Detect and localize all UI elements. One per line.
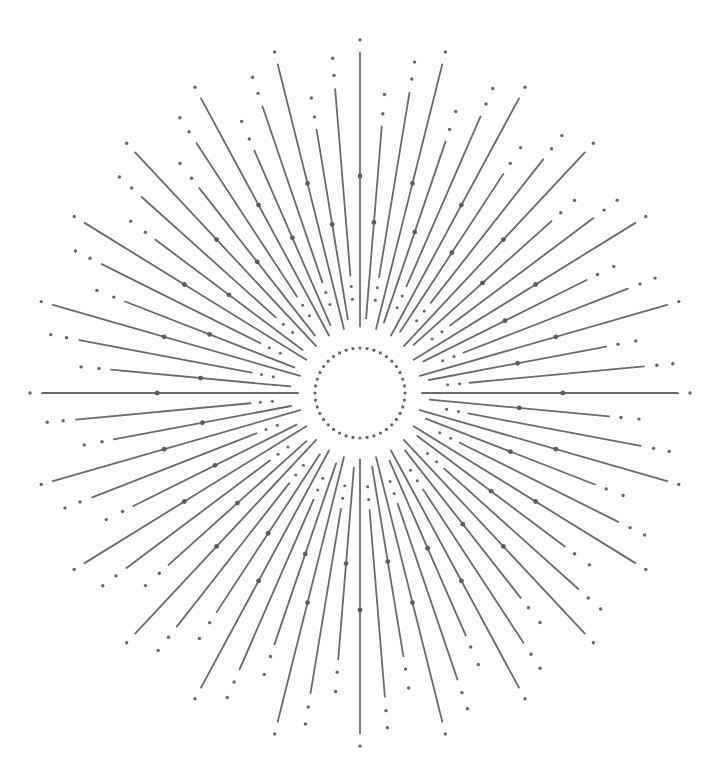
ring-dot — [318, 412, 321, 415]
ray-long — [73, 215, 307, 360]
ray-medium — [384, 110, 458, 323]
ray-long — [414, 426, 648, 571]
ray-short — [415, 134, 563, 322]
ray-short — [101, 446, 289, 588]
ring-dot — [344, 434, 347, 437]
ring-dot — [338, 431, 341, 434]
ring-dot — [322, 365, 325, 368]
ray-short — [409, 469, 542, 670]
ray-short — [118, 175, 294, 334]
ring-dot — [327, 423, 330, 426]
ray-long — [358, 459, 363, 747]
ray-medium — [429, 339, 638, 380]
ray-long — [414, 215, 648, 360]
ray-short — [426, 452, 602, 611]
ring-dot — [314, 398, 317, 401]
ray-long — [28, 391, 298, 396]
ray-short — [226, 477, 325, 699]
ring-dot — [403, 398, 406, 401]
ring-dot — [390, 360, 393, 363]
ray-medium — [430, 400, 641, 421]
ray-long — [376, 50, 447, 329]
ray-short — [49, 333, 275, 378]
ring-dot — [332, 355, 335, 358]
ray-short — [178, 116, 311, 317]
ray-long — [125, 440, 316, 644]
ray-long — [391, 86, 527, 336]
ray-short — [251, 76, 331, 306]
ray-medium — [334, 468, 354, 694]
ring-dot — [344, 349, 347, 352]
ray-long — [73, 426, 307, 571]
ray-medium — [310, 96, 348, 319]
ring-dot — [358, 436, 361, 439]
ring-dot — [365, 436, 368, 439]
ray-short — [45, 400, 273, 424]
ray-medium — [372, 467, 410, 690]
ring-dot — [327, 360, 330, 363]
ray-long — [273, 50, 344, 329]
ray-short — [438, 431, 646, 536]
sunburst-canvas — [0, 0, 718, 780]
ring-dot — [372, 434, 375, 437]
ray-long — [193, 450, 329, 700]
ring-dot — [318, 371, 321, 374]
ring-dot — [379, 351, 382, 354]
ray-short — [431, 199, 619, 341]
ray-short — [331, 57, 354, 301]
dotted-center-ring — [313, 346, 406, 439]
ray-medium — [263, 463, 337, 676]
ring-dot — [372, 349, 375, 352]
ring-dot — [322, 418, 325, 421]
ray-short — [63, 424, 279, 510]
ray-medium — [95, 289, 294, 368]
ring-dot — [385, 355, 388, 358]
ring-dot — [398, 412, 401, 415]
ring-dot — [338, 351, 341, 354]
ring-dot — [403, 391, 406, 394]
ray-short — [366, 485, 389, 729]
ring-dot — [395, 418, 398, 421]
ring-dot — [379, 431, 382, 434]
ray-short — [446, 362, 674, 386]
ring-dot — [316, 377, 319, 380]
ray-long — [391, 450, 527, 700]
ring-dot — [351, 436, 354, 439]
ring-dot — [358, 346, 361, 349]
ray-short — [389, 480, 469, 710]
ring-dot — [351, 347, 354, 350]
ray-short — [441, 276, 657, 362]
ray-medium — [79, 365, 290, 386]
ring-dot — [313, 391, 316, 394]
ray-short — [374, 60, 416, 301]
ray-long — [404, 440, 595, 644]
ray-medium — [83, 406, 292, 447]
ring-dot — [314, 384, 317, 387]
ray-long — [376, 457, 447, 736]
ray-short — [445, 408, 671, 453]
ring-dot — [390, 423, 393, 426]
ray-medium — [426, 419, 625, 498]
ring-dot — [398, 371, 401, 374]
ray-short — [74, 249, 282, 354]
ray-long — [420, 300, 681, 376]
ray-long — [422, 391, 692, 396]
ray-short — [304, 484, 346, 725]
ray-long — [125, 142, 316, 346]
ring-dot — [395, 365, 398, 368]
ray-long — [404, 142, 595, 346]
ring-dot — [365, 347, 368, 350]
ray-long — [273, 457, 344, 736]
ray-long — [193, 86, 329, 336]
ray-short — [156, 464, 304, 652]
ring-dot — [401, 405, 404, 408]
ring-dot — [385, 428, 388, 431]
ring-dot — [403, 384, 406, 387]
ray-long — [358, 38, 363, 326]
ring-dot — [316, 405, 319, 408]
ring-dot — [332, 428, 335, 431]
ray-long — [40, 410, 301, 486]
sunburst-rays — [28, 38, 691, 748]
ray-short — [396, 87, 495, 309]
ray-medium — [366, 93, 386, 319]
